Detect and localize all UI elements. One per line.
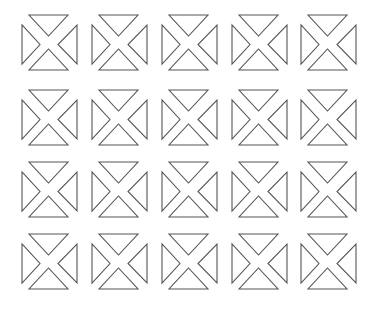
triangle-bottom	[169, 124, 208, 145]
triangle-top	[239, 162, 278, 183]
triangle-bottom	[169, 196, 208, 217]
triangle-bottom	[29, 196, 68, 217]
triangle-left	[22, 100, 40, 139]
placeholder-image-icon	[161, 14, 219, 72]
triangle-bottom	[308, 49, 347, 70]
placeholder-image-icon	[21, 89, 79, 147]
triangle-right	[268, 172, 287, 211]
triangle-left	[301, 100, 319, 139]
triangle-right	[128, 25, 147, 64]
placeholder-image-icon	[91, 233, 149, 291]
triangle-right	[337, 100, 356, 139]
triangle-top	[99, 90, 138, 111]
triangle-bottom	[29, 49, 68, 70]
triangle-bottom	[239, 124, 278, 145]
triangle-left	[232, 244, 250, 283]
placeholder-image-icon	[91, 161, 149, 219]
triangle-top	[29, 15, 68, 36]
triangle-right	[58, 25, 77, 64]
triangle-bottom	[99, 124, 138, 145]
triangle-bottom	[239, 196, 278, 217]
triangle-right	[58, 244, 77, 283]
triangle-right	[128, 172, 147, 211]
placeholder-image-icon	[300, 14, 358, 72]
triangle-left	[232, 172, 250, 211]
triangle-right	[268, 25, 287, 64]
placeholder-image-icon	[21, 14, 79, 72]
triangle-left	[92, 172, 110, 211]
triangle-right	[128, 100, 147, 139]
triangle-bottom	[29, 268, 68, 289]
triangle-top	[308, 90, 347, 111]
placeholder-image-icon	[21, 161, 79, 219]
triangle-top	[239, 90, 278, 111]
triangle-right	[268, 100, 287, 139]
placeholder-image-icon	[231, 161, 289, 219]
triangle-right	[58, 100, 77, 139]
triangle-top	[29, 162, 68, 183]
triangle-left	[162, 25, 180, 64]
triangle-bottom	[29, 124, 68, 145]
triangle-top	[169, 234, 208, 255]
placeholder-image-icon	[21, 233, 79, 291]
triangle-right	[198, 100, 217, 139]
triangle-top	[239, 234, 278, 255]
triangle-left	[301, 244, 319, 283]
triangle-top	[169, 90, 208, 111]
triangle-top	[99, 234, 138, 255]
triangle-left	[92, 100, 110, 139]
triangle-left	[22, 25, 40, 64]
triangle-right	[58, 172, 77, 211]
triangle-right	[198, 244, 217, 283]
triangle-bottom	[239, 49, 278, 70]
triangle-bottom	[99, 49, 138, 70]
triangle-bottom	[308, 124, 347, 145]
triangle-top	[169, 162, 208, 183]
triangle-bottom	[99, 196, 138, 217]
placeholder-image-icon	[161, 161, 219, 219]
triangle-top	[308, 234, 347, 255]
triangle-left	[92, 25, 110, 64]
triangle-bottom	[169, 49, 208, 70]
triangle-left	[232, 100, 250, 139]
placeholder-image-icon	[231, 14, 289, 72]
triangle-left	[22, 172, 40, 211]
placeholder-image-icon	[300, 233, 358, 291]
triangle-top	[169, 15, 208, 36]
placeholder-image-icon	[231, 233, 289, 291]
triangle-top	[99, 162, 138, 183]
triangle-bottom	[99, 268, 138, 289]
triangle-left	[162, 244, 180, 283]
triangle-bottom	[169, 268, 208, 289]
triangle-right	[337, 25, 356, 64]
triangle-bottom	[239, 268, 278, 289]
triangle-right	[337, 244, 356, 283]
triangle-top	[239, 15, 278, 36]
triangle-left	[301, 172, 319, 211]
triangle-left	[22, 244, 40, 283]
triangle-left	[301, 25, 319, 64]
triangle-right	[337, 172, 356, 211]
placeholder-image-icon	[161, 233, 219, 291]
triangle-right	[198, 172, 217, 211]
triangle-right	[128, 244, 147, 283]
placeholder-image-icon	[231, 89, 289, 147]
triangle-left	[162, 100, 180, 139]
triangle-top	[308, 162, 347, 183]
triangle-left	[92, 244, 110, 283]
placeholder-image-icon	[300, 161, 358, 219]
triangle-top	[99, 15, 138, 36]
triangle-top	[29, 90, 68, 111]
placeholder-image-icon	[91, 89, 149, 147]
triangle-top	[29, 234, 68, 255]
triangle-right	[268, 244, 287, 283]
triangle-left	[232, 25, 250, 64]
triangle-left	[162, 172, 180, 211]
placeholder-image-icon	[161, 89, 219, 147]
placeholder-image-icon	[91, 14, 149, 72]
triangle-bottom	[308, 196, 347, 217]
placeholder-image-icon	[300, 89, 358, 147]
triangle-top	[308, 15, 347, 36]
triangle-bottom	[308, 268, 347, 289]
triangle-right	[198, 25, 217, 64]
